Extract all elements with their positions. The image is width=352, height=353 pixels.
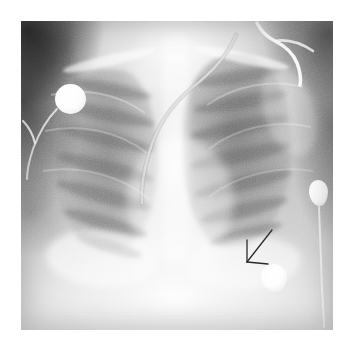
electrode-upper-right-chest [55, 84, 86, 114]
electrode-left-flank [309, 180, 328, 206]
radiograph-plate [21, 21, 333, 330]
figure-root: Anteroposterior chest radiograph with ar… [0, 0, 352, 353]
lead-wire-upper-right-chest [27, 109, 57, 179]
lead-wire-left-flank [319, 207, 324, 327]
thoracic-spine [163, 33, 190, 268]
electrode-lower-left-chest [261, 264, 287, 292]
support-tubing-branch [275, 40, 313, 51]
lead-wire-axillary-fragment [23, 121, 35, 143]
